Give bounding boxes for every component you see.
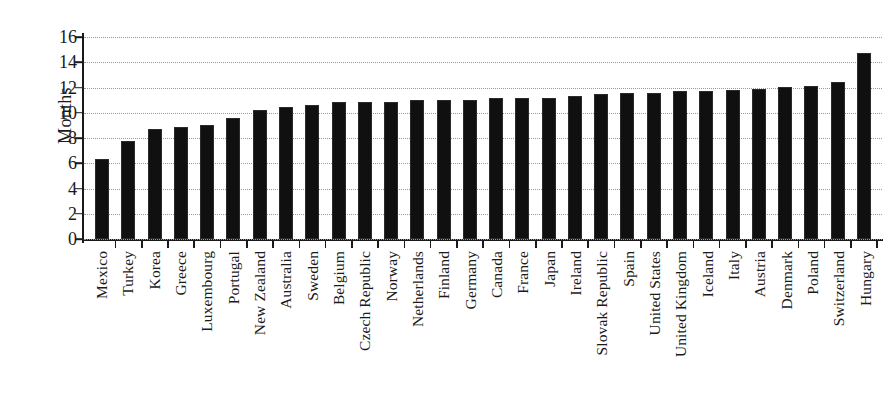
x-axis-category-label: Australia [279,251,295,309]
x-axis-category-label: Italy [726,251,742,280]
x-label-slot: Japan [537,247,563,415]
bar-slot [430,37,456,239]
bar-slot [220,37,246,239]
bar-slot [168,37,194,239]
x-label-slot: France [510,247,536,415]
bar-series [84,37,882,239]
bar-slot [824,37,850,239]
bar [515,98,529,239]
x-axis-category-label: Mexico [94,251,110,299]
x-axis-category-label: New Zealand [252,251,268,335]
bar [778,87,792,239]
bar-slot [299,37,325,239]
x-axis-category-label: Turkey [121,251,137,296]
x-label-slot: Denmark [774,247,800,415]
x-label-slot: Germany [458,247,484,415]
bar [699,91,713,239]
x-axis-category-label: Spain [621,251,637,287]
x-label-slot: Sweden [300,247,326,415]
x-axis-category-label: Ireland [568,251,584,296]
bar-slot [404,37,430,239]
x-axis-category-label: France [516,251,532,294]
bar [568,96,582,239]
x-label-slot: Greece [168,247,194,415]
x-axis-category-label: Portugal [226,251,242,304]
bar-slot [352,37,378,239]
y-axis-tick-label: 8 [68,128,77,149]
x-label-slot: United States [642,247,668,415]
bar-slot [325,37,351,239]
x-axis-category-label: Switzerland [832,251,848,326]
x-axis-category-label: Slovak Republic [595,251,611,355]
x-label-slot: Portugal [221,247,247,415]
x-axis-category-labels: MexicoTurkeyKoreaGreeceLuxembourgPortuga… [84,247,884,415]
x-label-slot: Spain [616,247,642,415]
bar-slot [194,37,220,239]
bar [831,82,845,239]
bar [857,53,871,239]
x-axis-category-label: Netherlands [410,251,426,327]
x-axis-category-label: Hungary [858,251,874,306]
bar-slot [142,37,168,239]
x-label-slot: Korea [142,247,168,415]
y-axis-tick-label: 16 [59,27,77,48]
bar-slot [457,37,483,239]
x-axis-category-label: Belgium [331,251,347,305]
bar-slot [509,37,535,239]
x-label-slot: Poland [800,247,826,415]
x-label-slot: Norway [379,247,405,415]
bar [253,110,267,239]
bar-slot [378,37,404,239]
x-axis-category-label: Norway [384,251,400,302]
bar [148,129,162,239]
x-axis-category-label: Canada [489,251,505,298]
x-label-slot: Luxembourg [194,247,220,415]
bar-slot [247,37,273,239]
x-axis-category-label: Greece [173,251,189,295]
bar [95,159,109,239]
x-label-slot: Hungary [853,247,879,415]
x-label-slot: Finland [431,247,457,415]
bar-slot [614,37,640,239]
bar-slot [667,37,693,239]
x-axis-category-label: Denmark [779,251,795,309]
x-label-slot: Slovak Republic [589,247,615,415]
bar [463,100,477,240]
x-axis-category-label: United States [647,251,663,335]
bar-slot [483,37,509,239]
bar [358,102,372,239]
bar [226,118,240,239]
bar-slot [851,37,877,239]
bar [542,98,556,239]
bar [121,141,135,239]
bar-slot [273,37,299,239]
x-label-slot: United Kingdom [668,247,694,415]
x-label-slot: Ireland [563,247,589,415]
x-axis-category-label: Luxembourg [200,251,216,332]
y-axis-tick-label: 4 [68,178,77,199]
bar-slot [772,37,798,239]
y-axis-tick-label: 0 [68,229,77,250]
y-axis-tick-label: 12 [59,77,77,98]
bar-slot [115,37,141,239]
bar [673,91,687,239]
bar-chart-figure: Months 0246810121416 MexicoTurkeyKoreaGr… [0,0,891,420]
x-label-slot: Italy [721,247,747,415]
bar [647,93,661,239]
bar-slot [746,37,772,239]
x-label-slot: Canada [484,247,510,415]
bar [410,100,424,239]
bar [620,93,634,239]
y-axis-tick-label: 6 [68,153,77,174]
bar-slot [89,37,115,239]
x-axis-category-label: Iceland [700,251,716,297]
bar-slot [536,37,562,239]
bar [804,86,818,239]
x-axis-category-label: Sweden [305,251,321,301]
x-label-slot: Australia [273,247,299,415]
x-label-slot: Mexico [89,247,115,415]
x-axis-category-label: Poland [805,251,821,295]
x-label-slot: Netherlands [405,247,431,415]
bar [332,102,346,239]
x-label-slot: Czech Republic [352,247,378,415]
